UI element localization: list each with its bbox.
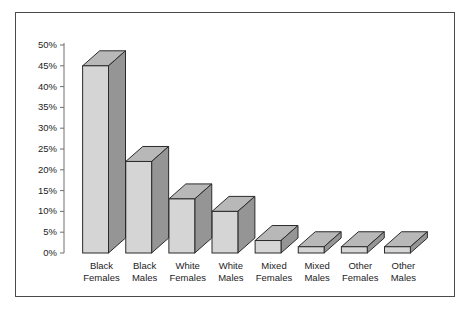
bar-front-face <box>83 66 109 253</box>
x-axis-label: Other <box>392 260 416 271</box>
x-axis-label: Females <box>256 272 293 283</box>
x-axis-label: Black <box>90 260 113 271</box>
y-tick-label: 0% <box>43 247 57 258</box>
x-axis-label: Mixed <box>304 260 329 271</box>
bar-front-face <box>169 199 195 253</box>
y-tick-label: 30% <box>38 122 58 133</box>
bar-2 <box>169 184 212 253</box>
x-axis-label: Males <box>391 272 417 283</box>
y-axis: 0%5%10%15%20%25%30%35%40%45%50% <box>38 39 64 258</box>
x-axis-label: Black <box>133 260 156 271</box>
bar-6 <box>341 232 384 253</box>
x-axis-label: Females <box>342 272 379 283</box>
bar-chart: 0%5%10%15%20%25%30%35%40%45%50% BlackFem… <box>16 13 456 298</box>
y-tick-label: 5% <box>43 226 57 237</box>
bar-7 <box>385 232 428 253</box>
bar-front-face <box>255 241 281 253</box>
bar-3 <box>212 196 255 253</box>
bar-front-face <box>126 161 152 253</box>
bar-4 <box>255 226 298 253</box>
bars-group <box>83 51 428 253</box>
y-tick-label: 20% <box>38 164 58 175</box>
bar-5 <box>298 232 341 253</box>
bar-front-face <box>212 211 238 253</box>
bar-side-face <box>109 51 126 253</box>
x-axis-label: Females <box>83 272 120 283</box>
chart-frame: 0%5%10%15%20%25%30%35%40%45%50% BlackFem… <box>15 12 455 297</box>
x-axis-label: Males <box>304 272 330 283</box>
bar-front-face <box>298 247 324 253</box>
x-axis-label: Males <box>132 272 158 283</box>
plot-area: 0%5%10%15%20%25%30%35%40%45%50% BlackFem… <box>16 13 456 298</box>
y-tick-label: 50% <box>38 39 58 50</box>
x-axis-labels: BlackFemalesBlackMalesWhiteFemalesWhiteM… <box>83 260 416 283</box>
y-tick-label: 25% <box>38 143 58 154</box>
y-tick-label: 10% <box>38 205 58 216</box>
x-axis-label: White <box>219 260 243 271</box>
y-tick-label: 15% <box>38 185 58 196</box>
bar-0 <box>83 51 126 253</box>
x-axis-label: Males <box>218 272 244 283</box>
bar-front-face <box>385 247 411 253</box>
y-tick-label: 45% <box>38 60 58 71</box>
y-tick-label: 40% <box>38 81 58 92</box>
x-axis-label: Females <box>170 272 207 283</box>
x-axis-label: White <box>176 260 200 271</box>
y-tick-label: 35% <box>38 101 58 112</box>
bar-front-face <box>341 247 367 253</box>
x-axis-label: Other <box>348 260 372 271</box>
bar-1 <box>126 146 169 253</box>
x-axis-label: Mixed <box>261 260 286 271</box>
bar-side-face <box>152 146 169 253</box>
